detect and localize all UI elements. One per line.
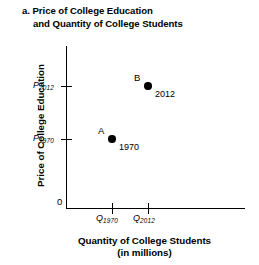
data-point-b xyxy=(144,82,151,89)
chart-title: a. Price of College Education and Quanti… xyxy=(22,5,247,30)
scatter-chart: a. Price of College Education and Quanti… xyxy=(0,0,259,265)
y-axis-line xyxy=(66,46,67,209)
point-label-a: A xyxy=(98,126,104,136)
x-tick-q1970 xyxy=(112,203,113,214)
y-tick-p1970 xyxy=(61,139,72,140)
y-tick-p2012 xyxy=(61,86,72,87)
x-axis-line xyxy=(66,208,245,209)
origin-label: 0 xyxy=(57,197,62,207)
point-year-2012: 2012 xyxy=(155,90,175,99)
y-axis-title: Price of College Education xyxy=(35,46,46,206)
x-axis-title-main: Quantity of College Students xyxy=(78,235,211,246)
x-axis-title-units: (in millions) xyxy=(52,247,237,259)
x-axis-label-q2012: Q2012 xyxy=(133,214,155,223)
x-tick-q2012 xyxy=(148,203,149,214)
chart-title-line-1: a. Price of College Education xyxy=(22,5,153,16)
point-label-b: B xyxy=(134,73,140,83)
x-axis-title: Quantity of College Students (in million… xyxy=(52,235,237,259)
x-axis-label-q1970: Q1970 xyxy=(96,214,118,223)
data-point-a xyxy=(108,135,115,142)
point-year-1970: 1970 xyxy=(119,143,139,152)
chart-title-line-2: and Quantity of College Students xyxy=(22,18,247,31)
